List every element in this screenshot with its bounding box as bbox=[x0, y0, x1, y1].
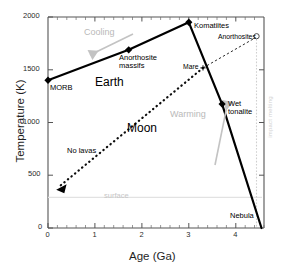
x-tick-label-1: 1 bbox=[92, 231, 96, 239]
label-warming: Warming bbox=[170, 110, 206, 119]
y-axis-title-wrap: Temperature (K) bbox=[10, 56, 28, 186]
label-surface: surface bbox=[104, 192, 129, 200]
label-anorthosites: Anorthosites bbox=[218, 33, 256, 40]
label-wet-tonalite-line2: tonalite bbox=[228, 108, 252, 116]
marker-mare bbox=[200, 65, 205, 70]
warming-arrow bbox=[215, 101, 228, 165]
x-tick-label-3: 3 bbox=[186, 231, 190, 239]
y-tick-label-500: 500 bbox=[28, 170, 41, 178]
label-morb: MORB bbox=[50, 84, 73, 92]
label-nebula: Nebula bbox=[230, 212, 254, 220]
label-komatiites: Komatiites bbox=[194, 22, 229, 30]
data-markers bbox=[44, 19, 259, 108]
label-mare: Mare bbox=[183, 63, 199, 70]
label-cooling: Cooling bbox=[84, 28, 115, 37]
label-earth: Earth bbox=[95, 76, 124, 89]
label-moon: Moon bbox=[127, 122, 157, 135]
marker-wet-tonalite bbox=[219, 101, 226, 108]
x-tick-label-2: 2 bbox=[139, 231, 143, 239]
y-tick-label-0: 0 bbox=[38, 223, 42, 231]
label-impact-melting: impact melting bbox=[267, 96, 273, 137]
earth-cooling-line bbox=[48, 22, 189, 80]
y-axis-title: Temperature (K) bbox=[14, 79, 26, 162]
mare-to-anorthosites-line bbox=[203, 37, 257, 68]
y-tick-label-2000: 2000 bbox=[23, 12, 40, 20]
chart-figure: 2000 1500 1000 500 0 0 1 2 3 4 Age (Ga) … bbox=[0, 0, 283, 280]
label-anorthosite-massifs-line2: massifs bbox=[119, 62, 144, 70]
marker-komatiites bbox=[185, 19, 192, 26]
x-axis-title: Age (Ga) bbox=[129, 250, 176, 262]
label-no-lavas: No lavas bbox=[67, 147, 96, 155]
x-tick-label-0: 0 bbox=[46, 231, 50, 239]
label-impact-melting-wrap: impact melting bbox=[258, 72, 276, 162]
x-tick-label-4: 4 bbox=[233, 231, 237, 239]
